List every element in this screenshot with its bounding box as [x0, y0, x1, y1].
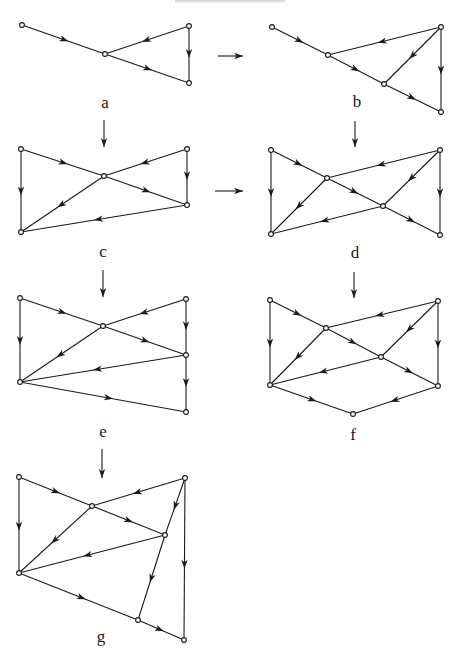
transition-arrow-c-to-d: [215, 188, 243, 194]
edge: [383, 206, 440, 235]
vertex: [184, 410, 189, 415]
edge: [183, 355, 189, 412]
edge: [19, 573, 138, 620]
vertex: [439, 25, 444, 30]
transition-arrow-c-to-e: [100, 270, 106, 297]
diagram-canvas: abcdefg: [0, 0, 455, 659]
vertex: [436, 299, 441, 304]
vertex: [381, 204, 386, 209]
vertex: [182, 638, 187, 643]
vertex: [269, 148, 274, 153]
edge: [384, 84, 441, 112]
diagram-c: c: [18, 147, 190, 261]
edge: [328, 55, 384, 84]
transition-arrow-a-to-b: [218, 53, 243, 59]
edge: [435, 301, 441, 386]
edge: [326, 301, 438, 328]
edge-line: [21, 205, 187, 232]
edge: [138, 620, 184, 640]
edge-line: [19, 573, 138, 620]
edge-line: [327, 150, 440, 178]
vertex: [103, 52, 108, 57]
edge: [327, 178, 383, 206]
vertex: [185, 147, 190, 152]
panel-label: b: [353, 92, 362, 111]
transition-arrow-b-to-d: [352, 121, 358, 147]
edge: [20, 382, 186, 412]
transition-arrows: [99, 53, 358, 478]
vertex: [163, 533, 168, 538]
vertex: [268, 383, 273, 388]
edge: [353, 386, 438, 414]
edge: [438, 27, 444, 112]
edge: [184, 149, 190, 205]
edge: [271, 178, 327, 234]
vertex: [270, 25, 275, 30]
vertex: [438, 233, 443, 238]
edge: [16, 477, 22, 573]
edge: [183, 299, 189, 355]
edge: [20, 326, 103, 382]
edge-line: [271, 206, 383, 234]
edge-line: [270, 357, 381, 385]
panel-label: d: [351, 243, 360, 262]
diagram-f: f: [267, 298, 441, 444]
diagram-g: g: [16, 475, 188, 646]
edge: [186, 26, 192, 83]
edge: [105, 54, 189, 83]
edge: [18, 149, 24, 232]
vertex: [136, 618, 141, 623]
panel-label: e: [99, 422, 107, 441]
vertex: [351, 412, 356, 417]
transition-arrow-e-to-g: [99, 449, 105, 478]
vertex: [184, 353, 189, 358]
edge: [20, 355, 186, 382]
panel-label: g: [97, 627, 106, 646]
edge: [19, 477, 92, 506]
edge-line: [19, 535, 165, 573]
vertex: [17, 571, 22, 576]
edge: [181, 478, 187, 640]
arrow-icon: [58, 200, 67, 208]
vertex: [187, 24, 192, 29]
diagram-b: b: [270, 25, 445, 115]
diagram-panels: abcdefg: [16, 23, 444, 646]
arrow-icon: [403, 366, 412, 373]
vertex: [101, 324, 106, 329]
diagram-e: e: [17, 296, 189, 441]
vertex: [20, 23, 25, 28]
edge: [21, 176, 104, 232]
edge: [92, 506, 165, 535]
transition-arrow-d-to-f: [351, 272, 357, 298]
edge: [21, 205, 187, 232]
edge: [268, 150, 274, 234]
edge: [270, 328, 326, 385]
vertex: [102, 174, 107, 179]
vertex: [187, 81, 192, 86]
edge: [326, 328, 381, 357]
edge: [270, 357, 381, 385]
edge: [328, 27, 441, 55]
edge: [383, 150, 440, 206]
arrow-icon: [347, 337, 356, 344]
edge-line: [20, 355, 186, 382]
edge: [437, 150, 443, 235]
edge: [271, 206, 383, 234]
vertex: [18, 296, 23, 301]
panel-label: f: [350, 425, 356, 444]
edge: [20, 298, 103, 326]
edge: [384, 27, 441, 84]
edge: [381, 301, 438, 357]
edge: [271, 150, 327, 178]
arrow-icon: [405, 215, 414, 222]
transition-arrow-a-to-c: [101, 120, 107, 147]
edge: [270, 300, 326, 328]
edge: [381, 357, 438, 386]
edge: [327, 150, 440, 178]
edge: [138, 535, 165, 620]
vertex: [19, 147, 24, 152]
panel-label: a: [101, 93, 109, 112]
edge: [21, 149, 104, 176]
edge: [92, 478, 185, 506]
vertex: [17, 475, 22, 480]
